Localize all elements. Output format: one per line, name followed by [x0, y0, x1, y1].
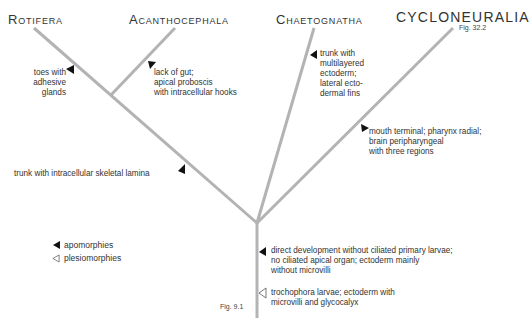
cycloneuralia-characters: mouth terminal; pharynx radial; brain pe…	[369, 127, 481, 157]
plesiomorphy-marker-stem	[259, 288, 266, 298]
apomorphy-marker-rotifera	[66, 65, 74, 74]
rotifera-characters: toes with adhesive glands	[26, 68, 66, 98]
apomorphy-marker-cycloneuralia	[361, 124, 369, 132]
legend-apomorphies: apomorphies	[53, 240, 113, 250]
filled-triangle-icon	[53, 241, 60, 249]
apomorphy-marker-stem	[259, 247, 266, 256]
stem-figure-ref: Fig. 9.1	[220, 303, 243, 310]
rotifera-acanthocephala-characters: trunk with intracellular skeletal lamina	[14, 169, 150, 179]
cycloneuralia-figure-ref: Fig. 32.2	[459, 24, 486, 31]
legend-plesiomorphies: plesiomorphies	[52, 253, 121, 263]
acanthocephala-characters: lack of gut; apical proboscis with intra…	[154, 68, 237, 98]
taxon-chaetognatha: Chaetognatha	[276, 12, 363, 27]
apomorphy-marker-rotifera-acanthocephala	[178, 164, 185, 174]
stem-plesiomorphies: trochophora larvae; ectoderm with microv…	[271, 288, 395, 308]
apomorphy-marker-chaetognatha	[310, 50, 317, 59]
hollow-triangle-icon	[52, 254, 60, 263]
taxon-cycloneuralia: CYCLONEURALIA	[396, 9, 530, 25]
chaetognatha-characters: trunk with multilayered ectoderm; latera…	[320, 49, 364, 99]
taxon-rotifera: Rotifera	[8, 12, 63, 27]
stem-apomorphies: direct development without ciliated prim…	[271, 246, 453, 276]
taxon-acanthocephala: Acanthocephala	[129, 12, 229, 27]
